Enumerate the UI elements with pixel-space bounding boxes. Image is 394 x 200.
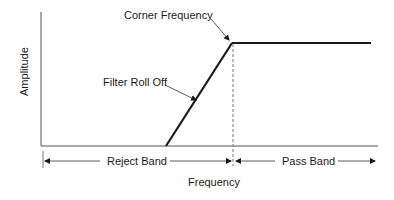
- x-axis-label: Frequency: [188, 177, 240, 188]
- filter-response-diagram: [0, 0, 394, 200]
- corner-frequency-arrow: [211, 19, 229, 40]
- corner-frequency-label: Corner Frequency: [124, 10, 213, 21]
- pass-band-label: Pass Band: [279, 156, 338, 167]
- roll-off-label: Filter Roll Off: [103, 77, 167, 88]
- roll-off-arrow: [165, 85, 196, 100]
- roll-off-line: [166, 43, 232, 146]
- reject-band-label: Reject Band: [104, 156, 170, 167]
- y-axis-label: Amplitude: [19, 44, 30, 100]
